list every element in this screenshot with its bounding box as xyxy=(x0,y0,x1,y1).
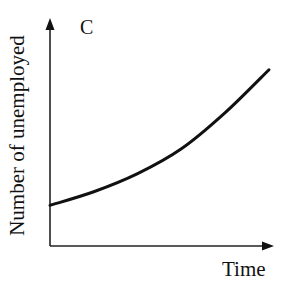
panel-label: C xyxy=(80,16,93,39)
y-axis-arrow-icon xyxy=(46,18,55,30)
data-curve xyxy=(50,70,269,206)
chart-container: Number of unemployed C Time xyxy=(0,0,292,287)
y-axis-label: Number of unemployed xyxy=(5,35,30,236)
y-axis-label-wrap: Number of unemployed xyxy=(4,20,30,250)
x-axis-arrow-icon xyxy=(262,242,274,251)
chart-plot xyxy=(0,0,292,287)
x-axis-label: Time xyxy=(222,257,266,282)
